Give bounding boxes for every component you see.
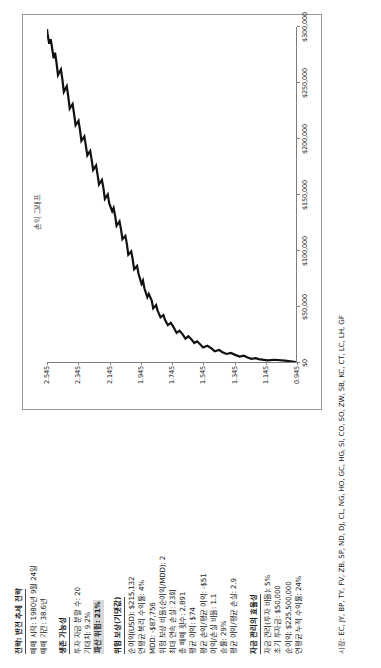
money-management-section: 자금 관리의 효율성 자금 관리(투자 비율): 5% 초기 투자금: $50,… (249, 418, 304, 654)
stat-cagr: 연평균 복리 수익률: 4% (137, 418, 147, 654)
y-axis-tick: 2.545 (43, 366, 51, 384)
stat-capital-splits: 투자 자금 분할 수: 20 (73, 418, 83, 654)
survivability-section: 생존 가능성 투자 자금 분할 수: 20 기대치: 9.2% 파산 위험: 2… (58, 418, 103, 654)
stat-net-profit: 순이익(USD): $215,132 (127, 418, 137, 654)
stat-win-rate: 승률: 29% (219, 418, 229, 654)
stat-average-profit: 평균 이익: $74 (188, 418, 198, 654)
y-axis-tick: 1.345 (231, 366, 239, 384)
risk-reward-heading: 위험 보상(기댓값) (113, 597, 125, 654)
plot-wrapper: 0.9451.1451.3451.5451.7451.9452.1452.345… (47, 27, 297, 363)
stat-compounded-net-profit: 순이익: $225,500,000 (284, 418, 294, 654)
risk-reward-section: 위험 보상(기댓값) 순이익(USD): $215,132 연평균 복리 수익률… (113, 418, 240, 654)
x-axis-tick: $150,000 (301, 180, 309, 210)
x-axis-tick: $300,000 (301, 12, 309, 42)
stat-total-trades: 총 매매 횟수: 2,891 (178, 418, 188, 654)
stat-mdd: MDD: -$87,756 (148, 418, 158, 654)
rotated-page-container: 전략: 반전 추세 전략 매매 시작: 1980년 9월 24일 매매 기간: … (0, 0, 381, 668)
trading-start-label: 매매 시작: 1980년 9월 24일 (29, 418, 39, 654)
x-axis-tick: $100,000 (301, 236, 309, 266)
stat-max-consecutive-losses: 최대 연속 손실: 23회 (168, 418, 178, 654)
x-axis-tick: $50,000 (301, 294, 309, 320)
trading-duration-label: 매매 기간: 38.6년 (39, 418, 49, 654)
stat-risk-reward-ratio: 위험 보상 비율(순이익/MDD): 2 (158, 418, 168, 654)
chart-title: 손익 그래프 (31, 15, 42, 409)
strategy-report-page: 전략: 반전 추세 전략 매매 시작: 1980년 9월 24일 매매 기간: … (0, 0, 381, 668)
survivability-heading: 생존 가능성 (58, 617, 70, 654)
stat-avg-profit-over-avg-loss: 평균 이익/평균 손실: 2.9 (229, 418, 239, 654)
report-text-column: 전략: 반전 추세 전략 매매 시작: 1980년 9월 24일 매매 기간: … (14, 418, 367, 654)
x-axis-tick: $0 (301, 359, 309, 367)
y-axis-tick: 0.945 (293, 366, 301, 384)
y-axis-tick: 1.945 (137, 366, 145, 384)
stat-position-size-percent: 자금 관리(투자 비율): 5% (263, 418, 273, 654)
equity-curve-panel: 손익 그래프 0.9451.1451.3451.5451.7451.9452.1… (22, 14, 322, 410)
status-badge-risk-of-ruin: 파산 위험: 21% (93, 600, 103, 654)
y-axis-tick: 1.745 (168, 366, 176, 384)
y-axis-tick: 1.545 (199, 366, 207, 384)
markets-list: 시장: EC, JY, BP, TY, FV, ZB, SP, ND, DJ, … (336, 14, 346, 654)
x-axis-tick: $200,000 (301, 124, 309, 154)
stat-profit-loss-ratio: 이익/손실 비율: 1.1 (209, 418, 219, 654)
equity-curve-line (47, 27, 296, 362)
stat-compounded-cagr: 연평균 누적 수익률: 24% (294, 418, 304, 654)
stat-expectancy: 기대치: 9.2% (83, 418, 93, 654)
y-axis-tick: 2.145 (106, 366, 114, 384)
stat-initial-capital: 초기 투자금: $50,000 (273, 418, 283, 654)
page-title: 전략: 반전 추세 전략 (14, 589, 26, 654)
y-axis-tick: 1.145 (262, 366, 270, 384)
stat-average-loss: 평균 손익/평균 이익: -$51 (199, 418, 209, 654)
y-axis-tick: 2.345 (74, 366, 82, 384)
money-management-heading: 자금 관리의 효율성 (249, 594, 261, 654)
x-axis-tick: $250,000 (301, 68, 309, 98)
equity-curve-plot (47, 27, 297, 363)
